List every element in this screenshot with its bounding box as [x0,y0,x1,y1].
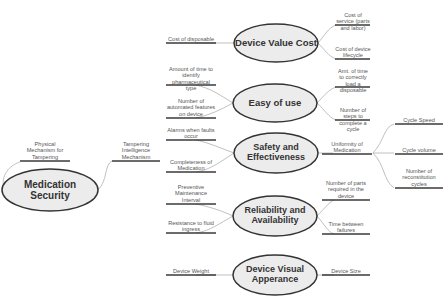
leaf-fluid-ingress[interactable]: Resistance to fluid ingress [166,220,216,233]
leaf-alarms[interactable]: Alarms when faults occur [166,127,216,140]
leaf-automated-features[interactable]: Number of automated features on device [166,98,216,117]
leaf-reconstitution-cycles[interactable]: Number of reconstitution cycles [395,168,443,187]
category-device-visual-appearance[interactable]: Device Visual Apperance [233,264,317,286]
category-easy-of-use[interactable]: Easy of use [233,94,317,112]
leaf-cost-of-disposable[interactable]: Cost of disposable [166,36,216,42]
leaf-preventive-maintenance[interactable]: Preventive Maintenance Interval [166,184,216,203]
leaf-cost-of-device-lifecycle[interactable]: Cost of device lifecycle [335,46,371,59]
leaf-cost-of-service[interactable]: Cost of service (parts and labor) [335,12,371,31]
category-reliability-availability[interactable]: Reliability and Availability [233,205,317,227]
leaf-device-weight[interactable]: Device Weight [166,268,216,274]
leaf-cycle-volume[interactable]: Cycle volume [395,147,443,153]
leaf-completeness[interactable]: Completeness of Medication [166,159,216,172]
category-device-value-cost[interactable]: Device Value Cost [234,34,318,52]
leaf-steps-to-complete[interactable]: Number of steps to complete a cycle [333,107,373,133]
leaf-uniformity[interactable]: Uniformity of Medication [322,141,372,154]
category-safety-effectiveness[interactable]: Safety and Effectiveness [234,142,318,164]
leaf-cycle-speed[interactable]: Cycle Speed [395,117,443,123]
branch-physical-mechanism[interactable]: Physical Mechanism for Tampering [20,141,70,160]
root-node[interactable]: Medication Security [10,176,90,204]
leaf-time-between-failures[interactable]: Time between failures [322,221,370,234]
branch-tampering-intelligence[interactable]: Tampering Intelligence Mechanism [112,141,160,160]
leaf-time-to-identify[interactable]: Amount of time to identify pharmaceutica… [166,66,216,92]
leaf-time-to-load[interactable]: Amt. of time to correctly load a disposa… [335,68,371,94]
leaf-number-of-parts[interactable]: Number of parts required in the device [322,180,370,199]
leaf-device-size[interactable]: Device Size [322,268,370,274]
